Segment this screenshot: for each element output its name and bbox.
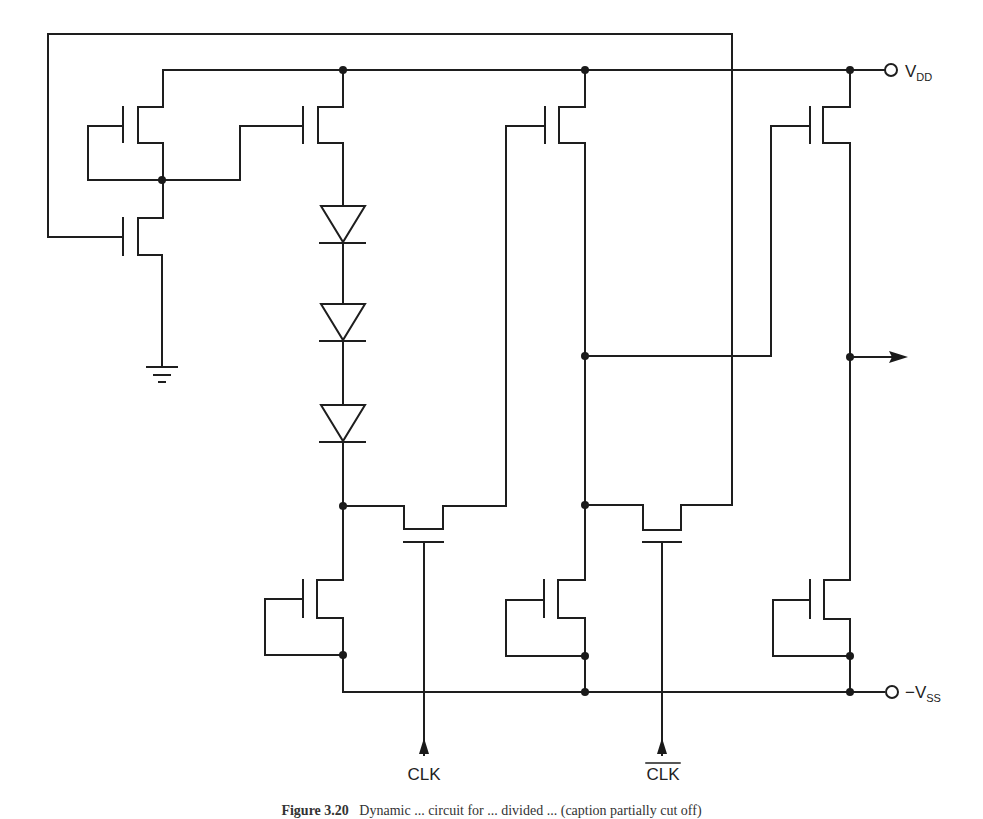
junction-dot — [846, 652, 854, 660]
diode-1 — [320, 206, 365, 304]
diode-2 — [320, 304, 365, 405]
diode-3 — [320, 405, 365, 580]
figure-caption-text: Dynamic ... circuit for ... divided ... … — [359, 803, 701, 818]
junction-dot — [581, 652, 589, 660]
figure-caption: Figure 3.20 Dynamic ... circuit for ... … — [0, 803, 983, 819]
vss-terminal — [886, 686, 898, 698]
clk-bar-label: CLK — [646, 763, 680, 784]
vdd-label: VDD — [905, 62, 932, 83]
stage2-to-output-gate-wire — [585, 126, 810, 356]
transistor-m1 — [88, 107, 303, 218]
transistor-m5 — [810, 70, 850, 580]
circuit-schematic: VDD −VSS CLK CLK — [0, 0, 983, 800]
junction-dot — [158, 176, 166, 184]
transistor-m10 — [773, 580, 850, 692]
vdd-rail — [163, 70, 884, 107]
transistor-m9 — [506, 580, 585, 692]
clk-label: CLK — [407, 765, 441, 784]
junction-dot — [581, 66, 589, 74]
ground-icon — [147, 367, 177, 382]
figure-number: Figure 3.20 — [281, 803, 348, 818]
transistor-m7-clkbar-pass — [585, 505, 681, 755]
feedback-wire — [48, 34, 732, 505]
junction-dot — [339, 66, 347, 74]
transistor-m8 — [265, 580, 343, 692]
output-arrow-icon — [850, 351, 908, 363]
junction-dot — [581, 688, 589, 696]
transistor-m3 — [303, 70, 343, 206]
junction-dot — [846, 66, 854, 74]
vss-label: −VSS — [905, 683, 941, 704]
transistor-m2 — [123, 218, 163, 367]
vdd-terminal — [885, 64, 897, 76]
junction-dot — [846, 688, 854, 696]
svg-text:CLK: CLK — [646, 765, 680, 784]
transistor-m4 — [545, 70, 585, 580]
transistor-m6-clk-pass — [343, 126, 545, 755]
junction-dot — [339, 651, 347, 659]
